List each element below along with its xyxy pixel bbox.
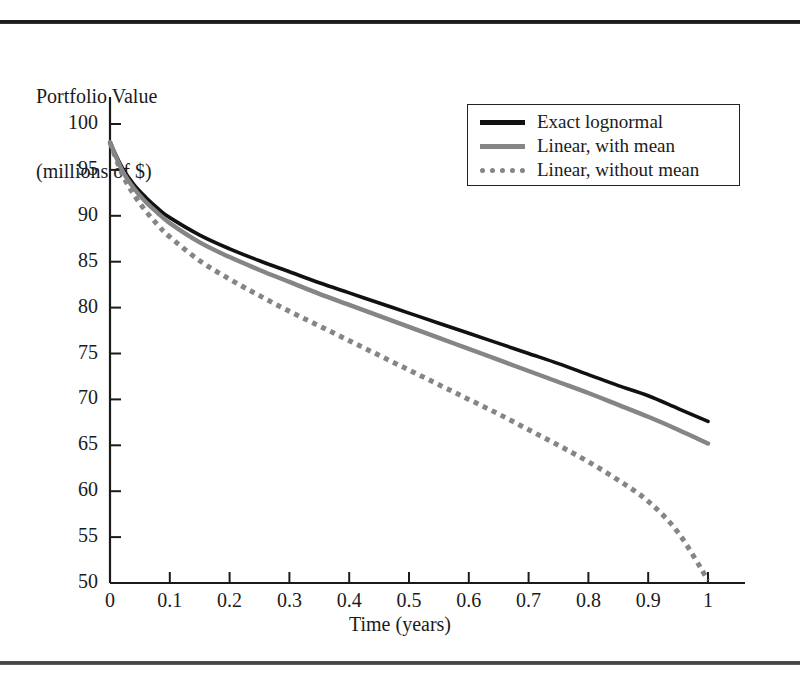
data-series-group [110, 142, 708, 580]
legend-label-2: Linear, without mean [537, 159, 699, 181]
legend-item-2[interactable]: Linear, without mean [468, 158, 739, 182]
y-tick-label: 90 [30, 203, 98, 226]
legend-item-1[interactable]: Linear, with mean [468, 134, 739, 158]
chart-legend: Exact lognormal Linear, with mean Linear… [467, 104, 740, 186]
y-tick-label: 95 [30, 157, 98, 180]
y-tick-label: 85 [30, 249, 98, 272]
legend-item-0[interactable]: Exact lognormal [468, 110, 739, 134]
x-tick-label: 1 [668, 589, 748, 612]
x-axis-label: Time (years) [0, 613, 800, 636]
y-tick-marks [110, 124, 121, 583]
legend-label-1: Linear, with mean [537, 135, 675, 157]
legend-swatch-solid-gray-icon [480, 139, 525, 153]
legend-swatch-solid-black-icon [480, 115, 525, 129]
y-tick-label: 60 [30, 478, 98, 501]
legend-label-0: Exact lognormal [537, 111, 663, 133]
y-tick-label: 70 [30, 386, 98, 409]
series-line-1 [110, 142, 708, 443]
y-tick-label: 55 [30, 524, 98, 547]
y-tick-label: 100 [30, 111, 98, 134]
figure-container: Portfolio Value (millions of $) 50556065… [0, 0, 800, 686]
x-tick-marks [170, 572, 708, 583]
plot-area [0, 0, 800, 686]
legend-swatch-dotted-gray-icon [480, 163, 525, 177]
series-line-2 [110, 142, 708, 580]
y-tick-label: 75 [30, 341, 98, 364]
y-tick-label: 80 [30, 295, 98, 318]
y-tick-label: 65 [30, 432, 98, 455]
